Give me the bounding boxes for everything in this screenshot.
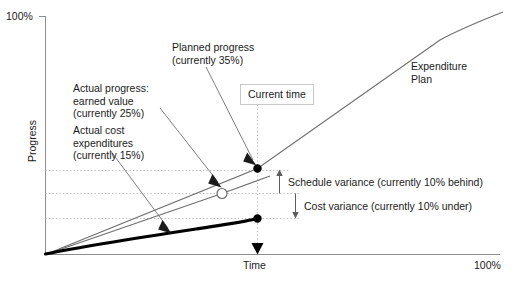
annotation-cost-variance: Cost variance (currently 10% under) — [304, 200, 472, 213]
annotation-planned-progress: Planned progress (currently 35%) — [172, 41, 254, 66]
chart-figure: 100% Progress Time 100% Current time Exp… — [0, 0, 516, 282]
x-axis-label: Time — [243, 259, 266, 272]
expenditure-plan-label: Expenditure Plan — [411, 60, 467, 85]
current-time-arrowhead — [252, 243, 264, 255]
earned-value-line — [46, 176, 271, 255]
annotation-schedule-variance: Schedule variance (currently 10% behind) — [288, 176, 483, 189]
cost-variance-arrowhead — [292, 212, 298, 219]
actual-cost-line — [46, 219, 258, 255]
annotation-earned-value: Actual progress: earned value (currently… — [73, 82, 149, 120]
arrowhead-actual-cost — [158, 220, 171, 234]
annotation-actual-cost: Actual cost expenditures (currently 15%) — [73, 124, 144, 162]
actual-cost-marker — [253, 214, 261, 222]
x-axis-right-tick-label: 100% — [474, 259, 501, 272]
y-axis-top-tick-label: 100% — [6, 10, 33, 23]
planned-progress-marker — [253, 164, 261, 172]
gridlines — [46, 171, 301, 219]
y-axis-label: Progress — [26, 120, 38, 162]
current-time-box: Current time — [240, 84, 314, 105]
earned-value-marker — [217, 189, 227, 199]
arrowhead-earned-value — [208, 174, 221, 188]
leader-planned-progress — [206, 67, 253, 160]
